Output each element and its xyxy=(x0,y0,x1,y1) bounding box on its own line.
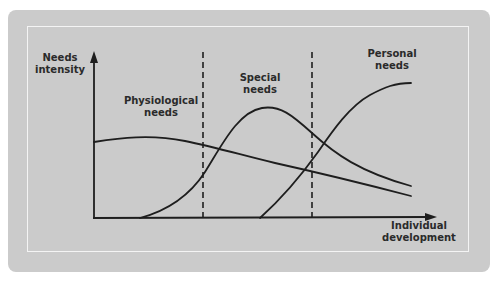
x-axis-label-line2: development xyxy=(382,232,456,243)
personal-needs-curve xyxy=(260,83,411,218)
special-label-line1: Special xyxy=(240,72,281,83)
y-axis-arrow-icon xyxy=(90,51,98,63)
y-axis-label-line2: intensity xyxy=(35,64,85,75)
physiological-label-line1: Physiological xyxy=(124,95,198,106)
physiological-needs-curve xyxy=(94,137,411,196)
personal-label-line1: Personal xyxy=(367,48,416,59)
physiological-label-line2: needs xyxy=(144,107,178,118)
needs-diagram: Needs intensity Physiological needs Spec… xyxy=(0,0,497,282)
personal-label-line2: needs xyxy=(375,60,409,71)
special-label-line2: needs xyxy=(243,84,277,95)
y-axis-label-line1: Needs xyxy=(42,52,77,63)
x-axis-label-line1: Individual xyxy=(391,220,447,231)
